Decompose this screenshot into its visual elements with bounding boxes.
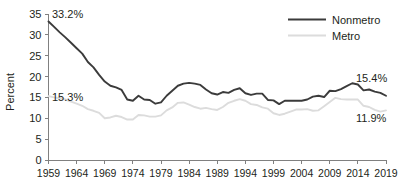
y-tick-label-0: 0 [35,154,41,166]
x-tick-label-1969: 1969 [93,167,117,179]
y-tick-label-5: 5 [35,133,41,145]
x-tick-label-2019: 2019 [374,167,398,179]
y-tick-labels: 05101520253035 [29,8,41,166]
legend-label-nonmetro: Nonmetro [332,14,380,26]
y-tick-marks [45,14,49,160]
chart-canvas: 05101520253035 Percent 19591964196919741… [0,0,398,186]
y-axis-title: Percent [4,73,16,111]
x-tick-label-1999: 1999 [262,167,286,179]
y-axis-group: 05101520253035 Percent [4,8,49,166]
y-tick-label-25: 25 [29,50,41,62]
annotation-start-metro: 15.3% [52,91,83,103]
x-tick-label-1984: 1984 [177,167,201,179]
series-line-metro [49,96,387,119]
y-tick-label-35: 35 [29,8,41,20]
y-tick-label-20: 20 [29,71,41,83]
legend: Nonmetro Metro [288,14,380,42]
x-tick-label-1959: 1959 [37,167,61,179]
annotation-end-nonmetro: 15.4% [356,72,387,84]
annotation-start-nonmetro: 33.2% [52,8,83,20]
x-tick-label-1989: 1989 [206,167,230,179]
annotation-end-metro: 11.9% [356,112,387,124]
x-tick-label-1974: 1974 [121,167,145,179]
x-tick-label-2014: 2014 [346,167,370,179]
legend-label-metro: Metro [332,30,360,42]
y-tick-label-10: 10 [29,112,41,124]
y-tick-label-15: 15 [29,91,41,103]
x-tick-label-1979: 1979 [149,167,173,179]
x-axis-group: 1959196419691974197919841989199419992004… [37,160,398,179]
x-tick-label-1994: 1994 [234,167,258,179]
poverty-rate-line-chart: 05101520253035 Percent 19591964196919741… [0,0,398,186]
x-tick-label-2004: 2004 [290,167,314,179]
y-tick-label-30: 30 [29,29,41,41]
x-tick-label-2009: 2009 [318,167,342,179]
x-tick-labels: 1959196419691974197919841989199419992004… [37,167,398,179]
x-tick-label-1964: 1964 [65,167,89,179]
